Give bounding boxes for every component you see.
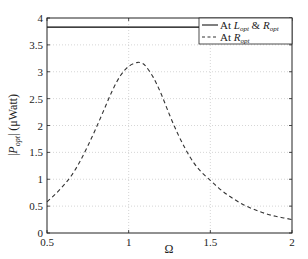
chart-figure: 0.511.5200.511.522.533.54 Ω |Popt| (μWat…: [0, 0, 308, 259]
x-axis-label: Ω: [165, 242, 174, 256]
series-line-2: [47, 62, 292, 219]
y-tick-label: 1: [38, 173, 44, 185]
y-axis-label: |Popt| (μWatt): [6, 94, 22, 156]
y-tick-label: 2.5: [29, 93, 43, 105]
x-tick-label: 2: [289, 236, 295, 248]
x-tick-label: 1.5: [203, 236, 217, 248]
legend: At Lopt & Ropt At Ropt: [199, 18, 292, 45]
y-tick-label: 2: [38, 120, 44, 132]
y-tick-label: 4: [38, 12, 44, 24]
y-tick-label: 0: [38, 227, 44, 239]
grid-lines: [47, 18, 292, 233]
y-tick-label: 0.5: [29, 200, 43, 212]
y-tick-label: 1.5: [29, 146, 43, 158]
y-tick-label: 3: [38, 66, 44, 78]
tick-labels: 0.511.5200.511.522.533.54: [29, 12, 295, 248]
y-tick-label: 3.5: [29, 39, 43, 51]
x-tick-label: 1: [126, 236, 132, 248]
data-series: [47, 27, 292, 219]
svg-text:|Popt| (μWatt): |Popt| (μWatt): [6, 94, 22, 156]
